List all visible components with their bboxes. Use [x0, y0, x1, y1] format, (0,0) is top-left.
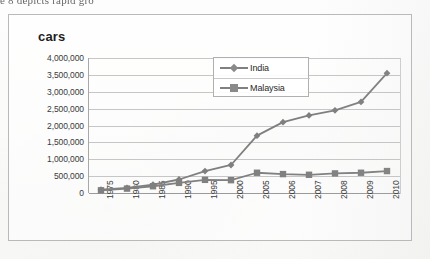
data-point-square [228, 177, 234, 183]
y-tick-label: 1,000,000 [18, 154, 84, 164]
cutoff-body-text: e 8 depicts rapid gro [0, 0, 330, 8]
y-tick-label: 3,000,000 [18, 87, 84, 97]
data-point-diamond [332, 107, 339, 114]
y-tick-label: 500,000 [18, 171, 84, 181]
data-point-square [280, 171, 286, 177]
plot-right-edge [400, 58, 401, 194]
series-line [101, 171, 387, 190]
y-tick-label: 3,500,000 [18, 70, 84, 80]
y-tick-label: 1,500,000 [18, 137, 84, 147]
legend-marker-square-icon [218, 81, 250, 95]
data-point-square [254, 170, 260, 176]
y-tick-label: 2,000,000 [18, 121, 84, 131]
series-malaysia [98, 168, 390, 194]
data-point-square [306, 172, 312, 178]
data-point-diamond [306, 112, 313, 119]
data-point-square [384, 168, 390, 174]
legend-entry-india: India [214, 58, 310, 79]
data-point-square [332, 170, 338, 176]
data-point-square [202, 177, 208, 183]
data-point-diamond [202, 168, 209, 175]
legend-entry-malaysia: Malaysia [214, 78, 310, 98]
y-tick-label: 0 [18, 188, 84, 198]
data-point-square [358, 170, 364, 176]
legend-marker-diamond-icon [218, 61, 250, 75]
y-tick-label: 4,000,000 [18, 53, 84, 63]
data-point-diamond [280, 119, 287, 126]
legend-label-india: India [250, 63, 269, 73]
y-tick-label: 2,500,000 [18, 104, 84, 114]
legend-label-malaysia: Malaysia [250, 83, 285, 93]
chart-legend: India Malaysia [213, 57, 309, 97]
y-axis-title: cars [38, 29, 66, 44]
